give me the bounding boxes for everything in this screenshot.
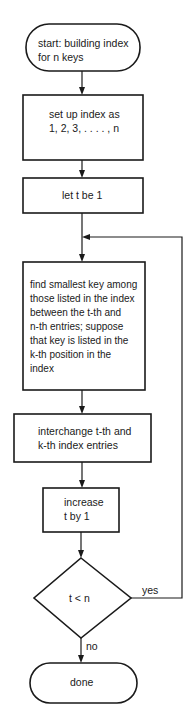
- init-t-label: let t be 1: [62, 189, 102, 203]
- decision-label: t < n: [69, 592, 90, 606]
- yes-label: yes: [142, 584, 158, 598]
- arrowhead: [82, 234, 90, 240]
- start-label: start: building index for n keys: [38, 37, 128, 64]
- arrowhead: [79, 87, 85, 95]
- arrowhead: [78, 550, 84, 558]
- increment-label: increase t by 1: [64, 496, 104, 523]
- arrowhead: [78, 655, 84, 663]
- arrowhead: [79, 170, 85, 178]
- arrowhead: [79, 480, 85, 488]
- done-label: done: [70, 676, 93, 690]
- find-min-label: find smallest key among those listed in …: [30, 278, 137, 376]
- no-label: no: [86, 640, 98, 654]
- arrowhead: [79, 406, 85, 414]
- swap-label: interchange t-th and k-th index entries: [38, 425, 131, 452]
- arrowhead: [79, 254, 85, 262]
- setup-label: set up index as 1, 2, 3, . . . . , n: [49, 108, 120, 135]
